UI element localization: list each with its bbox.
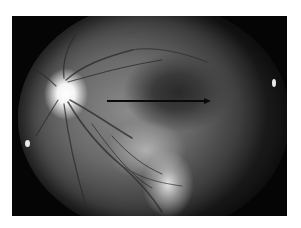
- arrow-annotation: [12, 16, 287, 216]
- fundus-image-frame: [12, 16, 287, 216]
